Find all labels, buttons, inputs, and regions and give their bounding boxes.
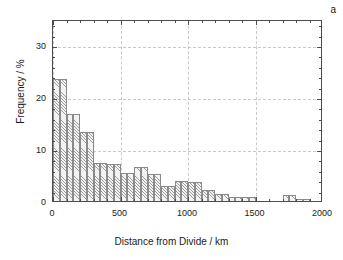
- histogram-bar: [107, 164, 114, 201]
- x-tick-label: 500: [112, 208, 127, 218]
- y-tick: [53, 172, 55, 173]
- y-tick-right: [319, 78, 321, 79]
- x-tick-top: [94, 21, 95, 23]
- y-tick-right: [319, 141, 321, 142]
- y-tick: [53, 182, 55, 183]
- y-tick-right: [319, 182, 321, 183]
- histogram-bar: [168, 186, 175, 201]
- x-tick: [161, 199, 162, 201]
- histogram-bar: [94, 163, 101, 201]
- histogram-bar: [202, 190, 209, 201]
- x-tick-top: [161, 21, 162, 23]
- x-tick: [188, 197, 189, 201]
- x-tick-top: [148, 21, 149, 23]
- histogram-bar: [296, 199, 303, 201]
- x-tick-top: [188, 21, 189, 25]
- x-tick-top: [229, 21, 230, 23]
- y-tick-label: 20: [26, 93, 46, 103]
- y-tick-right: [319, 89, 321, 90]
- y-tick: [53, 109, 55, 110]
- y-tick: [53, 37, 55, 38]
- y-tick-right: [319, 37, 321, 38]
- x-tick: [296, 199, 297, 201]
- y-tick-label: 30: [26, 41, 46, 51]
- panel-label: a: [330, 4, 336, 15]
- x-tick-top: [67, 21, 68, 23]
- y-tick: [53, 26, 55, 27]
- histogram-bar: [222, 194, 229, 201]
- y-tick-right: [319, 109, 321, 110]
- x-tick-top: [80, 21, 81, 23]
- histogram-bar: [73, 114, 80, 201]
- histogram-bar: [175, 181, 182, 201]
- x-tick: [175, 199, 176, 201]
- histogram-bar: [235, 197, 242, 201]
- x-tick-top: [175, 21, 176, 23]
- y-tick: [53, 193, 55, 194]
- x-tick: [310, 199, 311, 201]
- x-tick-label: 0: [49, 208, 54, 218]
- y-tick: [53, 99, 57, 100]
- x-tick-label: 2000: [312, 208, 332, 218]
- x-tick: [107, 199, 108, 201]
- histogram-bar: [188, 182, 195, 201]
- x-tick-label: 1500: [244, 208, 264, 218]
- y-tick-right: [317, 47, 321, 48]
- histogram-figure: 0500100015002000 0102030 Distance from D…: [0, 0, 343, 260]
- y-tick: [53, 130, 55, 131]
- y-tick-right: [319, 193, 321, 194]
- y-axis-title: Frequency / %: [15, 27, 26, 157]
- y-tick-right: [317, 99, 321, 100]
- y-tick-right: [319, 68, 321, 69]
- histogram-bar: [121, 173, 128, 201]
- y-tick-label: 10: [26, 145, 46, 155]
- y-tick-right: [317, 151, 321, 152]
- x-tick: [283, 199, 284, 201]
- x-tick: [269, 199, 270, 201]
- x-tick: [94, 199, 95, 201]
- x-tick-top: [134, 21, 135, 23]
- histogram-bar: [195, 182, 202, 201]
- x-tick: [242, 199, 243, 201]
- histogram-bar: [67, 114, 74, 201]
- x-tick-top: [202, 21, 203, 23]
- y-tick: [53, 151, 57, 152]
- x-tick-top: [107, 21, 108, 23]
- y-tick: [53, 120, 55, 121]
- x-tick: [67, 199, 68, 201]
- x-tick: [229, 199, 230, 201]
- plot-area: [52, 20, 322, 202]
- histogram-bar: [100, 163, 107, 201]
- x-tick: [121, 197, 122, 201]
- y-tick-right: [319, 172, 321, 173]
- histogram-bar: [303, 199, 310, 201]
- y-tick: [53, 141, 55, 142]
- histogram-bar: [229, 197, 236, 201]
- y-tick-right: [319, 120, 321, 121]
- x-tick-top: [53, 21, 54, 25]
- y-tick: [53, 89, 55, 90]
- x-tick: [202, 199, 203, 201]
- histogram-bar: [60, 79, 67, 201]
- x-tick: [215, 199, 216, 201]
- histogram-bar: [283, 195, 290, 201]
- x-tick-top: [310, 21, 311, 23]
- x-tick-label: 1000: [177, 208, 197, 218]
- x-tick-top: [283, 21, 284, 23]
- histogram-bar: [80, 132, 87, 201]
- x-tick-top: [242, 21, 243, 23]
- y-tick-right: [319, 26, 321, 27]
- histogram-bar: [242, 197, 249, 201]
- x-tick-top: [269, 21, 270, 23]
- histogram-bar: [127, 173, 134, 201]
- histogram-bar: [249, 197, 256, 201]
- y-tick-right: [319, 57, 321, 58]
- histogram-bar: [181, 181, 188, 201]
- histogram-bar: [87, 132, 94, 201]
- x-tick-top: [121, 21, 122, 25]
- histogram-bar: [134, 167, 141, 201]
- histogram-bar: [215, 194, 222, 201]
- y-tick-label: 0: [26, 197, 46, 207]
- histogram-bar: [161, 186, 168, 201]
- bar-series: [53, 21, 321, 201]
